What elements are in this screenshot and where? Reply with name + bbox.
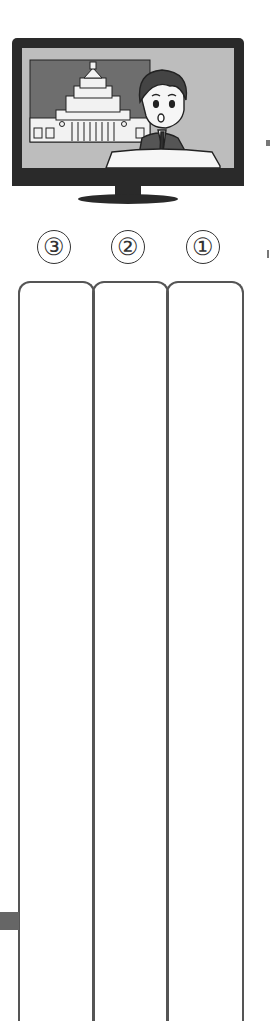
column-number-3: ③ (37, 230, 71, 264)
margin-marker (0, 912, 19, 930)
column-number-1: ① (186, 230, 220, 264)
answer-columns (18, 281, 244, 1003)
answer-column-1[interactable] (166, 281, 244, 1021)
news-desk (106, 149, 220, 168)
answer-column-3[interactable] (18, 281, 95, 1021)
answer-column-2[interactable] (92, 281, 169, 1021)
edge-mark (267, 250, 269, 258)
edge-mark (266, 140, 270, 146)
tv-news-illustration (0, 0, 270, 215)
column-number-2: ② (111, 230, 145, 264)
news-anchor-icon (138, 70, 190, 160)
tv-stand-base (78, 194, 178, 204)
